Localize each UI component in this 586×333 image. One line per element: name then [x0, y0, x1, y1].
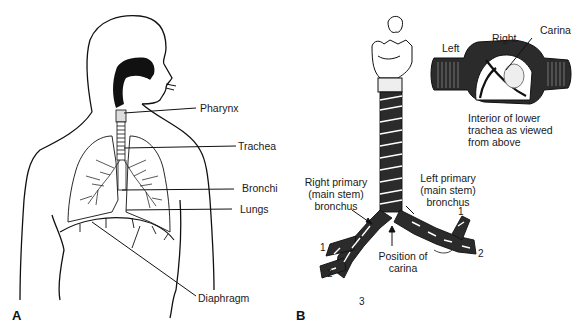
label-inset-right: Right [492, 32, 517, 44]
label-inset-left: Left [442, 42, 460, 54]
label-inset-caption: Interior of lower trachea as viewed from… [468, 112, 553, 148]
label-bronchi: Bronchi [242, 182, 278, 194]
label-trachea: Trachea [238, 140, 276, 152]
respiratory-diagram-svg [0, 0, 586, 333]
panel-a-diaphragm [60, 218, 174, 248]
panel-a-body-outline [20, 16, 214, 318]
branch-number-right-3: 3 [359, 296, 365, 307]
panel-a-leader-lines [92, 108, 236, 296]
panel-letter-b: B [296, 308, 305, 323]
label-lungs: Lungs [240, 203, 269, 215]
label-right-primary-bronchus: Right primary (main stem) bronchus [296, 176, 376, 212]
label-diaphragm: Diaphragm [198, 292, 249, 304]
branch-number-right-1: 1 [320, 242, 326, 253]
branch-number-right-2: 2 [327, 268, 333, 279]
label-position-of-carina: Position of carina [370, 250, 436, 274]
branch-number-left-1: 1 [458, 206, 464, 217]
branch-number-left-2: 2 [478, 248, 484, 259]
panel-a-trachea [116, 110, 126, 160]
panel-a-nasal-pharynx [113, 58, 176, 108]
panel-letter-a: A [12, 308, 21, 323]
label-inset-carina: Carina [540, 24, 571, 36]
label-left-primary-bronchus: Left primary (main stem) bronchus [410, 172, 486, 208]
panel-b-trachea [380, 92, 402, 212]
panel-b-larynx [372, 16, 412, 92]
label-pharynx: Pharynx [200, 102, 239, 114]
